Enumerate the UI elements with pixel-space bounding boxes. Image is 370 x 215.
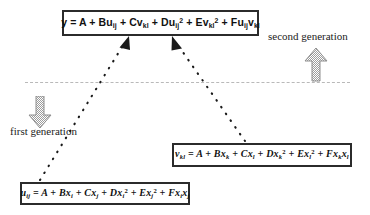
u-equation-text: uij = A + Bxi + Cxj + Dxi2 + Exj2 + Fxix…	[20, 188, 189, 199]
diagram-canvas: y = A + Buij + Cvkl + Duij2 + Evkl2 + Fu…	[0, 0, 370, 215]
v-equation-text: vkl = A + Bxk + Cxl + Dxk2 + Exl2 + Fxkx…	[175, 149, 349, 160]
second-generation-label: second generation	[268, 30, 348, 42]
dotted-arrow-v-to-y	[172, 36, 246, 141]
second-generation-equation-text: y = A + Buij + Cvkl + Duij2 + Evkl2 + Fu…	[61, 17, 260, 30]
dotted-arrow-u-to-y	[40, 36, 130, 180]
second-generation-equation-box: y = A + Buij + Cvkl + Duij2 + Evkl2 + Fu…	[62, 10, 259, 36]
v-equation-box: vkl = A + Bxk + Cxl + Dxk2 + Exl2 + Fxkx…	[172, 143, 352, 167]
first-generation-label: first generation	[10, 125, 77, 137]
up-block-arrow-icon	[304, 47, 328, 82]
u-equation-box: uij = A + Bxi + Cxj + Dxi2 + Exj2 + Fxix…	[20, 182, 190, 205]
